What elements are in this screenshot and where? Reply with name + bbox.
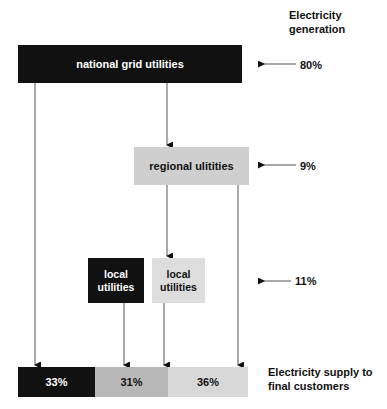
node-regional-utilities: regional ulitities bbox=[134, 147, 249, 185]
heading-electricity-generation: Electricitygeneration bbox=[289, 9, 345, 37]
node-local-utilities-light: localutilities bbox=[152, 258, 205, 303]
node-national-grid-utilities: national grid utilities bbox=[18, 45, 242, 83]
rate-label-generation: 80% bbox=[300, 59, 322, 71]
supply-bar-segment-national: 33% bbox=[18, 367, 95, 397]
electricity-flow-diagram: national grid utilities regional ulititi… bbox=[0, 0, 387, 409]
supply-bar-segment-regional: 31% bbox=[95, 367, 168, 397]
rate-label-local: 11% bbox=[295, 275, 316, 287]
rate-label-regional: 9% bbox=[300, 160, 316, 172]
supply-bar-segment-local: 36% bbox=[168, 367, 248, 397]
heading-electricity-supply: Electricity supply tofinal customers bbox=[268, 366, 373, 394]
node-local-utilities-dark: localutilities bbox=[88, 258, 144, 303]
